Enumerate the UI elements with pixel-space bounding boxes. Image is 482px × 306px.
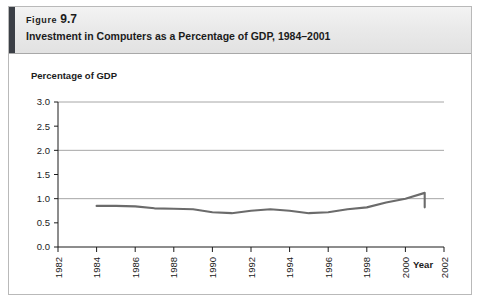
y-tick-label: 2.5 xyxy=(37,121,50,132)
x-tick-label: 2000 xyxy=(400,257,411,278)
x-tick-label: 1986 xyxy=(130,257,141,278)
x-tick-label: 2002 xyxy=(439,257,450,278)
x-tick-label: 1990 xyxy=(207,257,218,278)
y-tick-label: 0.5 xyxy=(37,217,50,228)
figure-number: 9.7 xyxy=(60,12,77,26)
x-tick-label: 1992 xyxy=(246,257,257,278)
header-accent-bar xyxy=(9,7,15,53)
y-axis-ticks xyxy=(54,102,58,247)
x-tick-label: 1998 xyxy=(361,257,372,278)
y-tick-label: 2.0 xyxy=(37,145,50,156)
figure-caption-number: Figure 9.7 xyxy=(26,12,77,26)
figure-frame: Figure 9.7 Investment in Computers as a … xyxy=(8,6,472,295)
x-axis-ticks xyxy=(58,247,444,252)
x-axis-tick-labels: 1982198419861988199019921994199619982000… xyxy=(53,257,450,278)
figure-label-word: Figure xyxy=(26,15,57,25)
figure-title: Investment in Computers as a Percentage … xyxy=(26,30,330,42)
gridlines-group xyxy=(58,102,444,199)
y-tick-label: 0.0 xyxy=(37,241,50,252)
plot-area: Percentage of GDP Year 0.00.51.01.52.02.… xyxy=(9,54,471,295)
figure-header: Figure 9.7 Investment in Computers as a … xyxy=(9,7,471,54)
x-tick-label: 1982 xyxy=(53,257,64,278)
x-tick-label: 1996 xyxy=(323,257,334,278)
line-chart: 0.00.51.01.52.02.53.0 198219841986198819… xyxy=(9,54,473,295)
y-axis-tick-labels: 0.00.51.01.52.02.53.0 xyxy=(37,96,50,252)
y-tick-label: 3.0 xyxy=(37,96,50,107)
y-tick-label: 1.5 xyxy=(37,169,50,180)
data-series-line xyxy=(97,193,425,213)
x-tick-label: 1984 xyxy=(91,257,102,278)
y-tick-label: 1.0 xyxy=(37,193,50,204)
x-tick-label: 1988 xyxy=(168,257,179,278)
x-tick-label: 1994 xyxy=(284,257,295,278)
